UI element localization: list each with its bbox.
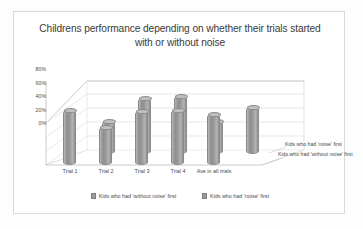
bar-cap bbox=[175, 94, 188, 99]
legend-item-without-noise[interactable]: Kids who had 'without noise' first bbox=[91, 193, 176, 199]
chart-title: Childrens performance depending on wheth… bbox=[36, 22, 324, 49]
y-axis: 0% 20% 40% 60% 80% bbox=[16, 60, 46, 185]
bar-cap bbox=[136, 109, 149, 114]
x-label-average: Ave in all trials bbox=[191, 168, 237, 175]
bar-without-noise-trial-3 bbox=[135, 111, 148, 165]
plot-area: 0% 20% 40% 60% 80% Trial 1 Trial 2 Trial… bbox=[14, 60, 346, 185]
legend-item-noise[interactable]: Kids who had 'noise' first bbox=[202, 193, 269, 199]
y-tick-0: 0% bbox=[20, 120, 46, 126]
bar-without-noise-trial-2 bbox=[99, 127, 112, 165]
chart-frame: Childrens performance depending on wheth… bbox=[13, 11, 345, 214]
bar-cap bbox=[172, 108, 185, 113]
bar-without-noise-trial-4 bbox=[171, 110, 184, 166]
legend-label-noise: Kids who had 'noise' first bbox=[210, 193, 269, 199]
bar-cap bbox=[64, 108, 77, 113]
bar-without-noise-average bbox=[207, 114, 220, 165]
bar-without-noise-trial-1 bbox=[63, 110, 76, 166]
y-tick-20: 20% bbox=[20, 107, 46, 113]
legend-label-without-noise: Kids who had 'without noise' first bbox=[99, 193, 177, 199]
legend-swatch-icon bbox=[202, 193, 207, 198]
bar-cap bbox=[247, 105, 260, 110]
y-tick-40: 40% bbox=[20, 93, 46, 99]
bar-cap bbox=[100, 125, 113, 130]
chart-legend: Kids who had 'without noise' first Kids … bbox=[14, 193, 346, 199]
bar-noise-average bbox=[246, 107, 259, 154]
legend-swatch-icon bbox=[91, 193, 96, 198]
bar-cap bbox=[103, 119, 116, 124]
depth-label-without-noise-first: Kids who had 'without noise' first bbox=[278, 151, 353, 157]
bar-cap bbox=[208, 112, 221, 117]
y-tick-60: 60% bbox=[20, 80, 46, 86]
y-tick-80: 80% bbox=[20, 66, 46, 72]
depth-label-noise-first: Kids who had 'noise' first bbox=[285, 141, 342, 147]
bar-cap bbox=[139, 96, 152, 101]
